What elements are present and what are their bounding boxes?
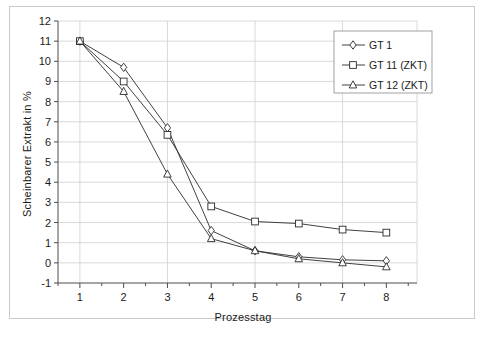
marker-square xyxy=(252,218,259,225)
y-tick-label: -1 xyxy=(41,277,51,289)
y-tick-label: 4 xyxy=(45,176,51,188)
marker-square xyxy=(383,229,390,236)
legend: GT 1GT 11 (ZKT)GT 12 (ZKT) xyxy=(334,31,432,93)
x-tick-label: 3 xyxy=(164,291,170,303)
y-tick-label: 12 xyxy=(39,15,51,27)
x-tick-label: 8 xyxy=(383,291,389,303)
y-tick-label: 8 xyxy=(45,96,51,108)
marker-square xyxy=(120,78,127,85)
y-tick-label: 1 xyxy=(45,237,51,249)
marker-square xyxy=(164,132,171,139)
x-axis-title: Prozesstag xyxy=(0,311,486,323)
x-tick-label: 6 xyxy=(296,291,302,303)
chart-plot: -1012345678910111212345678GT 1GT 11 (ZKT… xyxy=(0,0,486,339)
legend-label: GT 12 (ZKT) xyxy=(369,79,428,91)
marker-square xyxy=(208,203,215,210)
y-tick-label: 7 xyxy=(45,116,51,128)
x-tick-label: 2 xyxy=(121,291,127,303)
x-tick-label: 5 xyxy=(252,291,258,303)
y-axis-title: Scheinbarer Extrakt in % xyxy=(21,91,33,217)
y-tick-label: 6 xyxy=(45,136,51,148)
x-tick-label: 4 xyxy=(208,291,214,303)
y-tick-label: 11 xyxy=(40,35,51,47)
y-tick-label: 2 xyxy=(45,217,51,229)
marker-triangle xyxy=(164,170,172,177)
x-tick-label: 1 xyxy=(77,291,83,303)
legend-label: GT 1 xyxy=(369,39,392,51)
x-tick-label: 7 xyxy=(340,291,346,303)
y-tick-label: 0 xyxy=(45,257,51,269)
legend-label: GT 11 (ZKT) xyxy=(369,59,427,71)
y-tick-label: 10 xyxy=(39,55,51,67)
marker-square xyxy=(350,62,357,69)
chart-figure: -1012345678910111212345678GT 1GT 11 (ZKT… xyxy=(0,0,486,339)
y-tick-label: 5 xyxy=(45,156,51,168)
y-tick-label: 3 xyxy=(45,196,51,208)
y-tick-label: 9 xyxy=(45,75,51,87)
y-axis-title-wrapper: Scheinbarer Extrakt in % xyxy=(17,54,35,254)
marker-square xyxy=(295,220,302,227)
marker-square xyxy=(339,226,346,233)
